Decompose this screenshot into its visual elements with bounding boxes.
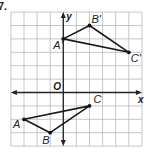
- vertex-point: [88, 104, 92, 108]
- x-axis-left-arrow-icon: [11, 90, 17, 95]
- y-axis-label: y: [65, 11, 72, 22]
- coordinate-plane: xyO ABCA'B'C': [0, 0, 150, 155]
- origin-label: O: [53, 81, 61, 92]
- vertex-label: C: [94, 93, 102, 105]
- vertex-label: B': [92, 13, 102, 25]
- vertex-label: A: [12, 118, 20, 130]
- vertex-label: B: [42, 134, 49, 146]
- vertex-point: [22, 117, 26, 121]
- x-axis-label: x: [137, 94, 144, 105]
- vertex-label: A': [52, 39, 63, 51]
- y-axis-up-arrow-icon: [61, 12, 66, 18]
- vertex-label: C': [131, 52, 142, 64]
- y-axis-down-arrow-icon: [61, 140, 66, 146]
